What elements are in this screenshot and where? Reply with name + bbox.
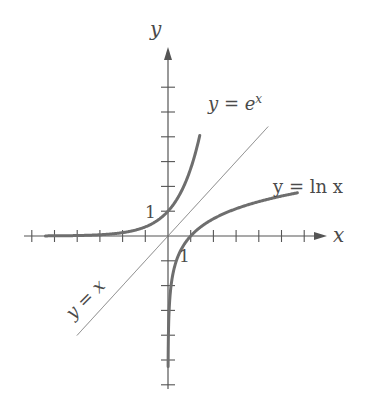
exp-curve bbox=[45, 135, 199, 235]
identity-curve bbox=[77, 127, 268, 335]
function-graph: x y 1 1 y = ex y = ln x y = x bbox=[0, 0, 370, 401]
y-axis-label: y bbox=[149, 17, 162, 41]
identity-line-label: y = x bbox=[60, 275, 109, 324]
y-tick-label-1: 1 bbox=[145, 202, 156, 222]
ln-curve-label: y = ln x bbox=[272, 176, 343, 197]
y-axis-arrow-icon bbox=[164, 47, 172, 60]
ln-curve bbox=[168, 193, 297, 367]
x-axis-label: x bbox=[333, 223, 344, 247]
curves bbox=[45, 127, 297, 367]
exp-curve-label: y = ex bbox=[207, 92, 262, 114]
x-axis-arrow-icon bbox=[314, 232, 327, 240]
axes bbox=[24, 47, 327, 389]
x-tick-label-1: 1 bbox=[179, 246, 190, 266]
